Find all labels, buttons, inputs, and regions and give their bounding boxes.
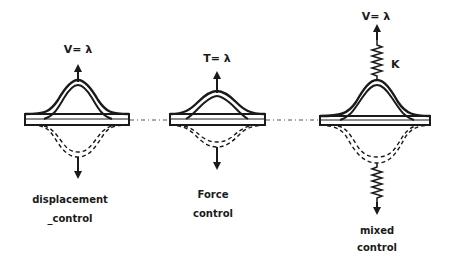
caption-line2: control	[193, 208, 233, 219]
panel-mixed-control: K V= λ mixed control	[320, 10, 430, 253]
deformed-shape-down	[170, 125, 265, 147]
panel-displacement-control: V= λ displacement _control	[25, 43, 129, 225]
spring-label: K	[391, 58, 400, 71]
caption-line1: mixed	[360, 225, 394, 236]
load-label: T= λ	[203, 52, 231, 65]
spring-icon	[372, 163, 382, 202]
deformed-shape-up	[170, 91, 265, 114]
spring-icon	[372, 40, 382, 80]
loading-modes-diagram: V= λ displacement _control T= λ Force co…	[0, 0, 454, 263]
caption-line2: _control	[48, 213, 93, 225]
panel-force-control: T= λ Force control	[170, 52, 265, 219]
caption-line2: control	[357, 242, 397, 253]
load-label: V= λ	[64, 43, 93, 56]
load-label: V= λ	[362, 10, 391, 23]
caption-line1: Force	[198, 189, 229, 200]
caption-line1: displacement	[32, 194, 108, 205]
